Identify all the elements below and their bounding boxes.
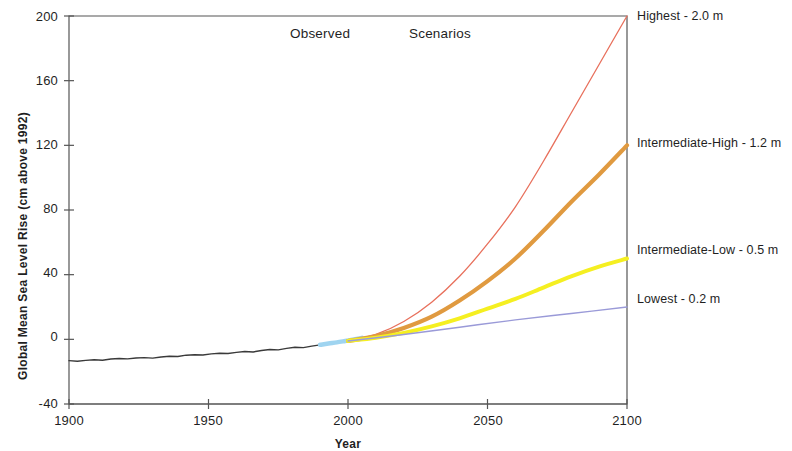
xtick-label-2100: 2100	[597, 413, 657, 428]
xtick-label-2000: 2000	[318, 413, 378, 428]
y-axis-title: Global Mean Sea Level Rise (cm above 199…	[16, 112, 30, 380]
series-label-intermediate-low: Intermediate-Low - 0.5 m	[637, 243, 778, 257]
series-line-highest	[348, 16, 627, 341]
series-label-highest: Highest - 2.0 m	[637, 9, 723, 23]
annotation-observed: Observed	[290, 26, 350, 41]
series-line-observed	[69, 344, 326, 362]
ytick-label-minus40: -40	[18, 396, 58, 411]
chart-canvas	[0, 0, 792, 451]
axis-ticks	[64, 16, 627, 409]
series-label-intermediate-high: Intermediate-High - 1.2 m	[637, 136, 781, 150]
data-series-group	[69, 16, 627, 361]
series-label-lowest: Lowest - 0.2 m	[637, 292, 720, 306]
xtick-label-1900: 1900	[39, 413, 99, 428]
plot-frame	[69, 16, 627, 404]
xtick-label-1950: 1950	[178, 413, 238, 428]
xtick-label-2050: 2050	[458, 413, 518, 428]
plot-border	[69, 16, 627, 404]
ytick-label-200: 200	[22, 9, 58, 24]
ytick-label-160: 160	[22, 73, 58, 88]
series-line-lowest	[348, 307, 627, 341]
annotation-scenarios: Scenarios	[409, 26, 471, 41]
x-axis-title: Year	[288, 437, 408, 451]
sea-level-rise-chart: 200 160 120 80 40 0 -40 1900 1950 2000 2…	[0, 0, 792, 451]
